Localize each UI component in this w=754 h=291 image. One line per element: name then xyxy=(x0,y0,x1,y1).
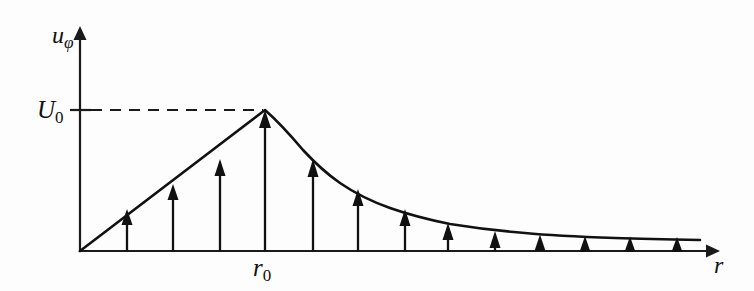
y-axis-value-subscript: 0 xyxy=(55,108,64,127)
x-axis-label-base: r xyxy=(714,252,723,278)
y-axis-value-label: U0 xyxy=(37,96,64,128)
y-axis-label: uφ xyxy=(52,22,74,53)
figure-container: uφ U0 r0 r xyxy=(0,0,754,291)
field-arrow xyxy=(490,231,501,251)
field-arrow xyxy=(215,159,226,251)
y-axis-arrowhead xyxy=(74,26,87,40)
x-axis-tick-subscript: 0 xyxy=(263,266,272,285)
x-axis-label: r xyxy=(714,252,723,279)
field-arrow xyxy=(259,110,271,251)
field-arrow xyxy=(580,236,591,252)
field-arrow xyxy=(122,209,133,251)
x-axis-tick-label: r0 xyxy=(253,254,271,286)
field-arrow xyxy=(535,235,546,252)
velocity-profile-plot xyxy=(0,0,754,291)
field-arrow-group xyxy=(122,110,683,252)
x-axis-tick-base: r xyxy=(253,254,263,281)
y-axis-label-base: u xyxy=(52,22,64,48)
field-arrow xyxy=(168,184,179,251)
field-arrow xyxy=(443,223,454,251)
y-axis-value-base: U xyxy=(37,96,55,123)
field-arrow xyxy=(308,159,319,251)
y-axis-label-subscript: φ xyxy=(64,33,74,52)
field-arrow xyxy=(353,189,364,251)
